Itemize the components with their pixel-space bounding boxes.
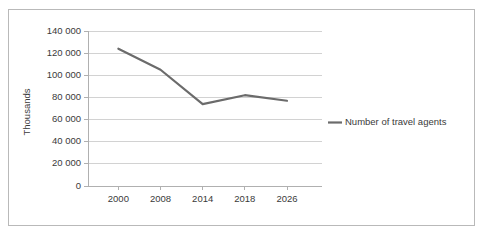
x-tick-label: 2018 <box>234 193 255 204</box>
legend-label-number-of-travel-agents: Number of travel agents <box>345 116 447 127</box>
y-axis-tick-labels: 020 00040 00060 00080 000100 000120 0001… <box>47 25 81 191</box>
y-tick-label: 40 000 <box>52 135 81 146</box>
x-axis-tick-labels: 20002008201420182026 <box>108 193 298 204</box>
y-tick-label: 60 000 <box>52 113 81 124</box>
y-tick-label: 120 000 <box>47 47 81 58</box>
chart-figure: 020 00040 00060 00080 000100 000120 0001… <box>0 0 484 238</box>
data-series-group <box>118 49 287 104</box>
y-tick-label: 0 <box>76 180 81 191</box>
line-chart: 020 00040 00060 00080 000100 000120 0001… <box>0 0 484 238</box>
y-tick-label: 140 000 <box>47 25 81 36</box>
y-axis-title: Thousands <box>21 88 32 135</box>
y-tick-label: 20 000 <box>52 157 81 168</box>
tickmark-group <box>84 31 287 190</box>
data-line-number-of-travel-agents <box>118 49 287 104</box>
gridline-group <box>88 31 322 186</box>
y-tick-label: 80 000 <box>52 91 81 102</box>
x-tick-label: 2014 <box>192 193 213 204</box>
x-tick-label: 2000 <box>108 193 129 204</box>
y-tick-label: 100 000 <box>47 69 81 80</box>
x-tick-label: 2026 <box>276 193 297 204</box>
x-tick-label: 2008 <box>150 193 171 204</box>
